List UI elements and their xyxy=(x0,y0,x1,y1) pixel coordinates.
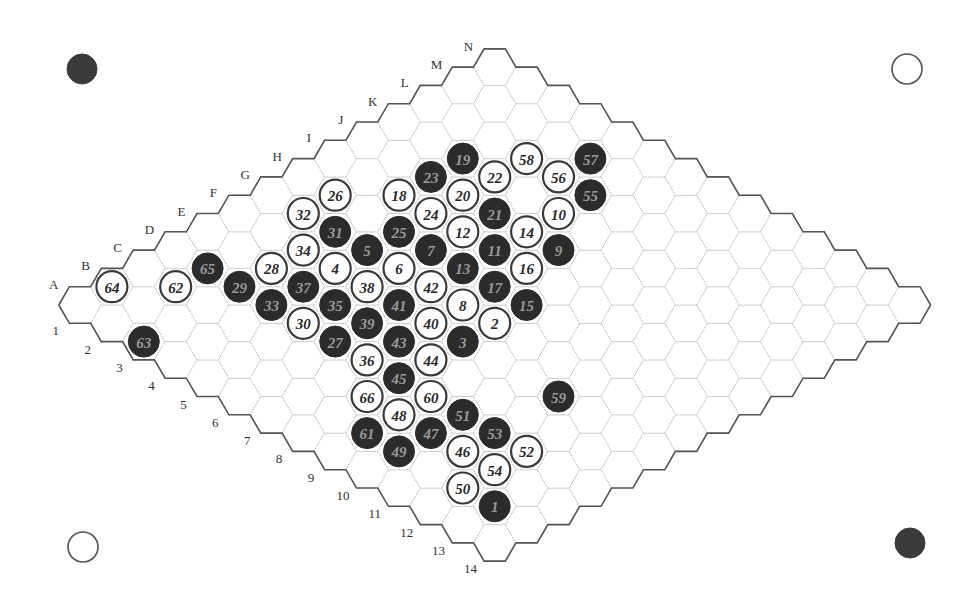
move-number: 40 xyxy=(422,316,439,332)
black-stone: 17 xyxy=(479,271,510,302)
move-number: 53 xyxy=(487,426,503,442)
move-number: 44 xyxy=(422,353,439,369)
move-number: 37 xyxy=(295,280,312,296)
white-stone: 8 xyxy=(447,290,478,321)
black-stone: 3 xyxy=(447,326,478,357)
move-number: 27 xyxy=(327,335,344,351)
white-stone: 44 xyxy=(415,344,446,375)
top-right-white-corner-marker xyxy=(892,54,922,84)
move-number: 46 xyxy=(454,444,471,460)
move-number: 26 xyxy=(327,188,344,204)
black-stone: 5 xyxy=(352,235,383,266)
move-number: 39 xyxy=(359,316,376,332)
black-stone: 13 xyxy=(447,253,478,284)
move-number: 58 xyxy=(519,152,535,168)
move-number: 49 xyxy=(391,444,408,460)
col-label: 13 xyxy=(432,543,445,558)
move-number: 62 xyxy=(168,280,184,296)
black-stone: 11 xyxy=(479,235,510,266)
move-number: 45 xyxy=(391,371,408,387)
black-stone: 45 xyxy=(384,363,415,394)
move-number: 16 xyxy=(519,261,535,277)
row-label: H xyxy=(272,149,281,164)
move-number: 56 xyxy=(551,170,567,186)
move-number: 31 xyxy=(327,225,343,241)
white-stone: 12 xyxy=(447,216,478,247)
move-number: 19 xyxy=(455,152,471,168)
row-label: L xyxy=(401,75,409,90)
top-left-black-corner-marker xyxy=(67,54,97,84)
move-number: 52 xyxy=(519,444,535,460)
white-stone: 36 xyxy=(352,344,383,375)
white-stone: 26 xyxy=(320,180,351,211)
black-stone: 59 xyxy=(543,381,574,412)
row-label: J xyxy=(338,112,343,127)
black-stone: 27 xyxy=(320,326,351,357)
black-stone: 35 xyxy=(320,290,351,321)
white-stone: 34 xyxy=(288,235,319,266)
black-stone: 19 xyxy=(447,143,478,174)
move-number: 6 xyxy=(395,261,403,277)
move-number: 12 xyxy=(455,225,471,241)
move-number: 35 xyxy=(327,298,344,314)
move-number: 14 xyxy=(519,225,535,241)
white-stone: 40 xyxy=(415,308,446,339)
col-label: 12 xyxy=(400,525,413,540)
move-number: 64 xyxy=(104,280,120,296)
white-stone: 18 xyxy=(384,180,415,211)
col-label: 5 xyxy=(180,397,187,412)
col-label: 3 xyxy=(116,360,123,375)
white-stone: 50 xyxy=(447,473,478,504)
white-stone: 62 xyxy=(160,271,191,302)
white-stone: 38 xyxy=(352,271,383,302)
move-number: 1 xyxy=(491,499,499,515)
col-label: 11 xyxy=(369,506,382,521)
move-number: 13 xyxy=(455,261,471,277)
col-label: 2 xyxy=(84,342,91,357)
move-number: 11 xyxy=(488,243,502,259)
move-number: 3 xyxy=(458,335,467,351)
white-stone: 66 xyxy=(352,381,383,412)
move-number: 4 xyxy=(330,261,339,277)
row-label: C xyxy=(113,240,122,255)
white-stone: 28 xyxy=(256,253,287,284)
row-label: E xyxy=(177,204,185,219)
move-number: 34 xyxy=(295,243,312,259)
move-number: 57 xyxy=(583,152,599,168)
move-number: 18 xyxy=(392,188,408,204)
white-stone: 52 xyxy=(511,436,542,467)
white-stone: 60 xyxy=(415,381,446,412)
white-stone: 54 xyxy=(479,454,510,485)
black-stone: 55 xyxy=(575,180,606,211)
move-number: 20 xyxy=(454,188,471,204)
move-number: 32 xyxy=(295,207,312,223)
white-stone: 24 xyxy=(415,198,446,229)
move-number: 8 xyxy=(459,298,467,314)
white-stone: 32 xyxy=(288,198,319,229)
white-stone: 6 xyxy=(384,253,415,284)
black-stone: 57 xyxy=(575,143,606,174)
black-stone: 37 xyxy=(288,271,319,302)
move-number: 43 xyxy=(391,335,408,351)
white-stone: 64 xyxy=(96,271,127,302)
black-stone: 31 xyxy=(320,216,351,247)
move-number: 9 xyxy=(555,243,563,259)
row-label: N xyxy=(464,39,474,54)
black-stone: 65 xyxy=(192,253,223,284)
white-stone: 2 xyxy=(479,308,510,339)
white-stone: 10 xyxy=(543,198,574,229)
white-stone: 4 xyxy=(320,253,351,284)
black-stone: 43 xyxy=(384,326,415,357)
row-label: A xyxy=(49,277,59,292)
black-stone: 21 xyxy=(479,198,510,229)
white-stone: 30 xyxy=(288,308,319,339)
black-stone: 33 xyxy=(256,290,287,321)
move-number: 10 xyxy=(551,207,567,223)
move-number: 25 xyxy=(391,225,408,241)
col-label: 9 xyxy=(308,470,315,485)
move-number: 29 xyxy=(231,280,248,296)
black-stone: 15 xyxy=(511,290,542,321)
move-number: 55 xyxy=(583,188,599,204)
move-number: 38 xyxy=(359,280,376,296)
bottom-right-black-corner-marker xyxy=(895,528,925,558)
